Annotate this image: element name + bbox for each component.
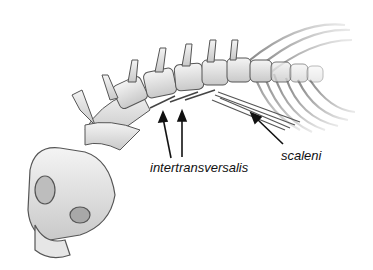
label-intertransversalis: intertransversalis [150,160,248,175]
arrows [159,111,283,158]
skull [28,148,115,258]
vertebrae [72,40,323,150]
skeleton-illustration [0,0,373,270]
scaleni-muscle [212,92,300,130]
label-scaleni: scaleni [281,148,321,163]
anatomy-diagram: intertransversalis scaleni [0,0,373,270]
